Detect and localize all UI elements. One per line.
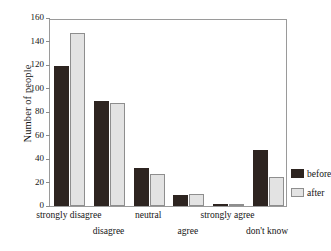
legend-entry-before: before: [291, 168, 329, 179]
y-tick-label: 80: [35, 105, 44, 118]
bar-before: [253, 150, 268, 206]
y-axis-title: Number of people: [22, 29, 33, 179]
x-axis-label: strongly agree: [200, 209, 254, 221]
y-tick-mark: [46, 18, 50, 19]
y-tick-label: 20: [35, 176, 44, 189]
bar-before: [134, 168, 149, 206]
x-axis-label: neutral: [135, 209, 161, 221]
bar-after: [150, 174, 165, 206]
bar-before: [173, 195, 188, 206]
y-tick-label: 40: [35, 152, 44, 165]
y-tick-label: 140: [31, 35, 45, 48]
bar-before: [54, 66, 69, 206]
y-tick-label: 160: [31, 11, 45, 24]
legend-label-before: before: [307, 169, 331, 179]
bar-group: [213, 20, 244, 206]
bars-layer: [50, 20, 286, 206]
bar-group: [94, 20, 125, 206]
x-axis-labels: strongly disagreedisagreeneutralagreestr…: [49, 209, 287, 251]
x-axis-label: disagree: [93, 225, 125, 237]
x-axis-label: don't know: [246, 225, 288, 237]
bar-after: [229, 204, 244, 206]
x-axis-label: strongly disagree: [36, 209, 101, 221]
bar-group: [54, 20, 85, 206]
bar-after: [269, 177, 284, 206]
bar-before: [94, 101, 109, 206]
plot-area: 020406080100120140160: [49, 19, 287, 207]
y-tick-label: 100: [31, 82, 45, 95]
bar-group: [134, 20, 165, 206]
legend-label-after: after: [307, 188, 324, 198]
bar-after: [189, 194, 204, 206]
x-axis-label: agree: [178, 225, 199, 237]
bar-group: [253, 20, 284, 206]
bar-group: [173, 20, 204, 206]
legend-entry-after: after: [291, 187, 329, 198]
y-tick-label: 120: [31, 58, 45, 71]
y-tick-label: 60: [35, 129, 44, 142]
bar-after: [110, 103, 125, 206]
bar-after: [70, 33, 85, 206]
chart-legend: beforeafter: [291, 168, 329, 206]
legend-swatch-after: [291, 188, 304, 197]
bar-before: [213, 204, 228, 206]
legend-swatch-before: [291, 169, 304, 178]
